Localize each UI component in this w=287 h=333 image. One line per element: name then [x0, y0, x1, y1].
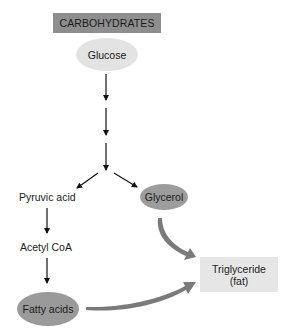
fat-label: (fat)	[230, 275, 249, 287]
triglyceride-box: Triglyceride (fat)	[200, 257, 278, 292]
fatty-acids-label: Fatty acids	[23, 303, 74, 315]
triglyceride-label: Triglyceride	[212, 263, 266, 275]
glucose-label: Glucose	[88, 49, 127, 61]
thick-arrows	[86, 218, 196, 311]
glucose-node: Glucose	[76, 38, 138, 71]
fatty-acids-node: Fatty acids	[17, 292, 79, 326]
arrow-fatty-to-triglyceride	[86, 282, 196, 311]
carbohydrates-label: CARBOHYDRATES	[59, 17, 154, 29]
glycerol-node: Glycerol	[140, 184, 188, 210]
acetyl-coa-label: Acetyl CoA	[20, 241, 72, 253]
arrow-branch-left	[77, 173, 98, 188]
arrow-branch-right	[114, 173, 137, 187]
arrow-glycerol-to-triglyceride	[158, 218, 196, 260]
carbohydrates-title-box: CARBOHYDRATES	[53, 13, 161, 33]
pyruvic-acid-label: Pyruvic acid	[19, 191, 76, 203]
glycerol-label: Glycerol	[145, 191, 184, 203]
